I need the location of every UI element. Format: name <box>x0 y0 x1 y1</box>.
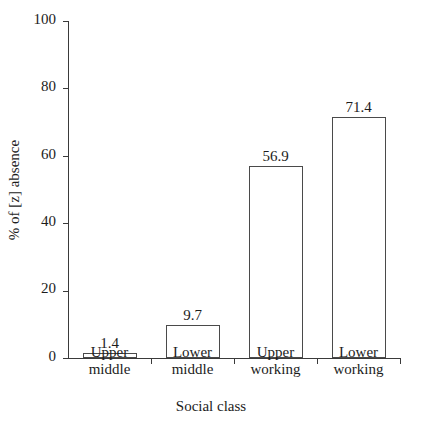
y-tick: 20 <box>63 291 68 292</box>
bar-value-label: 71.4 <box>345 100 371 115</box>
x-axis-label: Social class <box>0 398 422 415</box>
y-tick-label: 40 <box>41 214 56 229</box>
x-category-label: Lower working <box>317 344 400 378</box>
x-category-label: Upper middle <box>68 344 151 378</box>
y-tick: 40 <box>63 223 68 224</box>
x-tick <box>400 358 401 364</box>
chart-figure: % of [z] absence 020406080100 1.49.756.9… <box>0 0 422 423</box>
y-tick: 100 <box>63 21 68 22</box>
y-tick-label: 60 <box>41 147 56 162</box>
y-tick-label: 80 <box>41 79 56 94</box>
plot-area: 020406080100 1.49.756.971.4 <box>68 21 400 358</box>
y-tick-label: 100 <box>34 12 57 27</box>
bar-value-label: 9.7 <box>183 308 202 323</box>
y-axis-label-container: % of [z] absence <box>0 0 28 423</box>
y-axis-line <box>68 21 69 358</box>
bar: 56.9 <box>249 166 303 358</box>
y-tick-label: 0 <box>49 349 57 364</box>
bar: 71.4 <box>332 117 386 358</box>
y-tick: 60 <box>63 156 68 157</box>
bar-value-label: 56.9 <box>262 149 288 164</box>
y-tick: 80 <box>63 88 68 89</box>
y-axis-label: % of [z] absence <box>6 140 23 240</box>
x-category-label: Lower middle <box>151 344 234 378</box>
x-category-label: Upper working <box>234 344 317 378</box>
y-tick-label: 20 <box>41 281 56 296</box>
